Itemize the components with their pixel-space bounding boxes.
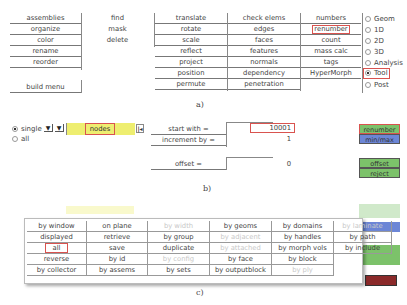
page-radio-analysis[interactable]: Analysis — [365, 58, 403, 68]
mode-radio-single[interactable]: single — [12, 124, 42, 134]
divider — [81, 80, 82, 93]
radio-icon — [365, 60, 371, 66]
divider — [226, 157, 273, 158]
menu-normals[interactable]: normals — [228, 57, 300, 68]
popup-option-by-collector[interactable]: by collector — [27, 265, 87, 276]
radio-icon — [365, 27, 371, 33]
popup-option-save[interactable]: save — [87, 243, 148, 254]
offset-button[interactable]: offset — [359, 158, 400, 168]
menu-renumber[interactable]: renumber — [301, 24, 361, 35]
popup-option-by-window[interactable]: by window — [27, 221, 87, 232]
radio-icon — [365, 16, 371, 22]
popup-option-by-laminate: by laminate — [334, 221, 392, 232]
min-max-button[interactable]: min/max — [359, 134, 400, 144]
menu-position[interactable]: position — [155, 68, 227, 79]
menu-numbers[interactable]: numbers — [301, 13, 361, 24]
popup-option-by-outputblock[interactable]: by outputblock — [210, 265, 272, 276]
dropdown-arrow-button[interactable]: ▼ — [55, 124, 64, 132]
popup-option-retrieve[interactable]: retrieve — [87, 232, 148, 243]
offset-label: offset = — [151, 159, 226, 170]
renumber-label: renumber — [312, 25, 349, 34]
mode-radio-all[interactable]: all — [12, 134, 29, 144]
menu-translate[interactable]: translate — [155, 13, 227, 24]
popup-option-displayed[interactable]: displayed — [27, 232, 87, 243]
radio-icon — [12, 136, 18, 142]
popup-option-empty — [334, 254, 392, 265]
popup-option-by-handles[interactable]: by handles — [272, 232, 334, 243]
popup-option-by-include[interactable]: by include — [334, 243, 392, 254]
menu-assemblies[interactable]: assemblies — [10, 13, 81, 24]
popup-option-by-config: by config — [148, 254, 210, 265]
menu-mass-calc[interactable]: mass calc — [301, 46, 361, 57]
popup-option-by-assems[interactable]: by assems — [87, 265, 148, 276]
popup-option-by-block[interactable]: by block — [272, 254, 334, 265]
popup-option-by-adjacent: by adjacent — [210, 232, 272, 243]
radio-label: Tool — [374, 69, 388, 77]
divider — [226, 157, 227, 170]
dropdown-arrow-button[interactable]: ▼ — [44, 124, 53, 132]
entity-selector[interactable]: nodes — [66, 123, 135, 135]
page-radio-geom[interactable]: Geom — [365, 14, 395, 24]
popup-option-reverse[interactable]: reverse — [27, 254, 87, 265]
popup-option-by-group[interactable]: by group — [148, 232, 210, 243]
popup-option-on-plane[interactable]: on plane — [87, 221, 148, 232]
radio-label: all — [21, 135, 29, 143]
menu-mask[interactable]: mask — [82, 24, 153, 34]
menu-color[interactable]: color — [10, 35, 81, 46]
menu-features[interactable]: features — [228, 46, 300, 57]
menu-count[interactable]: count — [301, 35, 361, 46]
popup-option-by-face[interactable]: by face — [210, 254, 272, 265]
caret-down-icon: ▼ — [46, 124, 51, 131]
popup-option-by-domains[interactable]: by domains — [272, 221, 334, 232]
radio-label: 3D — [374, 48, 384, 56]
popup-option-by-sets[interactable]: by sets — [148, 265, 210, 276]
reset-icon: |◂ — [137, 125, 142, 132]
page-radio-2d[interactable]: 2D — [365, 36, 384, 46]
radio-label: 1D — [374, 26, 384, 34]
radio-icon — [365, 38, 371, 44]
menu-reflect[interactable]: reflect — [155, 46, 227, 57]
popup-option-duplicate[interactable]: duplicate — [148, 243, 210, 254]
menu-faces[interactable]: faces — [228, 35, 300, 46]
caption-a: a) — [196, 100, 204, 109]
menu-find[interactable]: find — [82, 13, 153, 23]
menu-reorder[interactable]: reorder — [10, 57, 81, 68]
background-panel — [12, 204, 407, 218]
caret-down-icon: ▼ — [57, 124, 62, 131]
menu-project[interactable]: project — [155, 57, 227, 68]
popup-option-by-geoms[interactable]: by geoms — [210, 221, 272, 232]
reject-button[interactable]: reject — [359, 168, 400, 178]
renumber-button[interactable]: renumber — [359, 124, 400, 134]
page-radio-post[interactable]: Post — [365, 80, 389, 90]
menu-edges[interactable]: edges — [228, 24, 300, 35]
menu-hypermorph[interactable]: HyperMorph — [301, 68, 361, 79]
divider — [362, 13, 363, 93]
popup-option-by-path[interactable]: by path — [334, 232, 392, 243]
popup-option-by-width: by width — [148, 221, 210, 232]
page-radio-1d[interactable]: 1D — [365, 25, 384, 35]
reset-button[interactable]: |◂ — [136, 124, 144, 133]
popup-option-all[interactable]: all — [27, 243, 87, 254]
menu-rotate[interactable]: rotate — [155, 24, 227, 35]
increment-by-input[interactable]: 1 — [250, 134, 295, 144]
return-button-faded[interactable] — [365, 275, 397, 286]
radio-label: single — [21, 125, 42, 133]
menu-permute[interactable]: permute — [155, 79, 227, 90]
menu-rename[interactable]: rename — [10, 46, 81, 57]
page-radio-3d[interactable]: 3D — [365, 47, 384, 57]
menu-organize[interactable]: organize — [10, 24, 81, 35]
offset-input[interactable]: 0 — [250, 159, 295, 169]
entity-selector-label: nodes — [85, 123, 115, 135]
popup-option-by-morph-vols[interactable]: by morph vols — [272, 243, 334, 254]
menu-build-menu[interactable]: build menu — [10, 82, 81, 93]
menu-scale[interactable]: scale — [155, 35, 227, 46]
radio-label: Geom — [374, 15, 395, 23]
page-radio-tool[interactable]: Tool — [363, 68, 390, 79]
menu-delete[interactable]: delete — [82, 35, 153, 45]
menu-dependency[interactable]: dependency — [228, 68, 300, 79]
popup-option-by-id[interactable]: by id — [87, 254, 148, 265]
menu-check-elems[interactable]: check elems — [228, 13, 300, 24]
start-with-input[interactable]: 10001 — [250, 123, 295, 133]
menu-penetration[interactable]: penetration — [228, 79, 300, 90]
menu-tags[interactable]: tags — [301, 57, 361, 68]
